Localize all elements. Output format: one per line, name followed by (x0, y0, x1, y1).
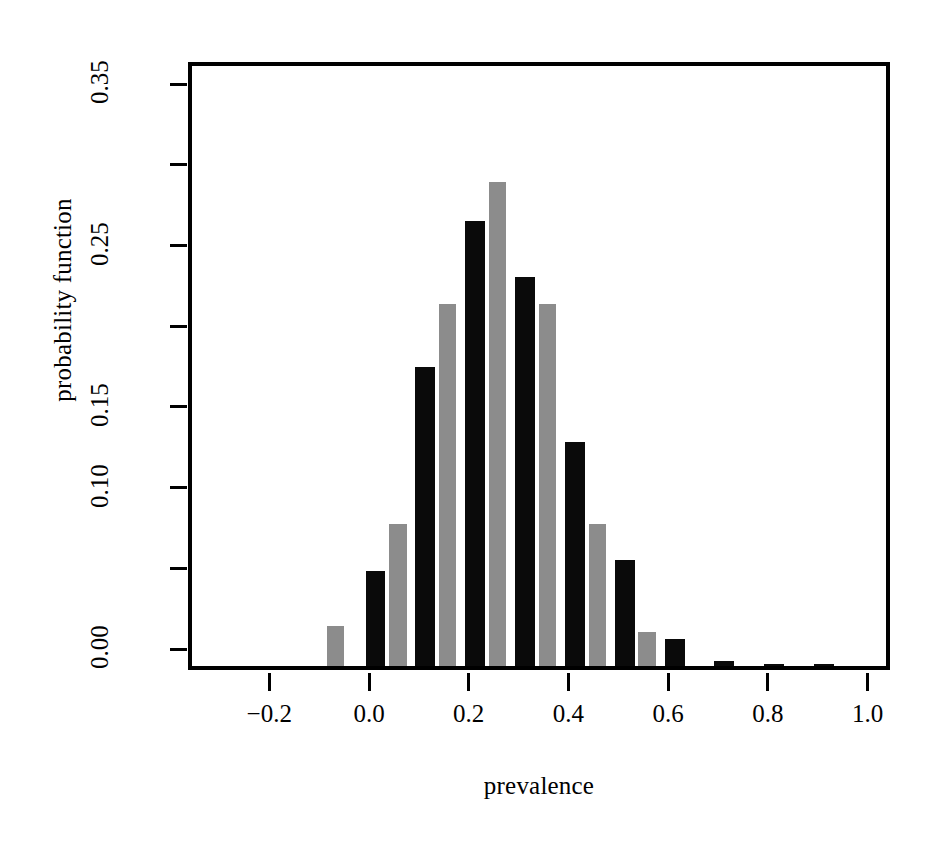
y-axis-label: probability function (46, 0, 80, 610)
x-tick-label-6: 1.0 (823, 700, 913, 728)
y-tick-6 (170, 163, 187, 166)
y-tick-5 (170, 244, 187, 247)
x-axis-label: prevalence (188, 772, 890, 800)
y-tick-label-4: 0.00 (86, 597, 114, 697)
x-tick-6 (866, 673, 869, 691)
y-tick-4 (170, 325, 187, 328)
x-tick-label-5: 0.8 (723, 700, 813, 728)
x-tick-1 (368, 673, 371, 691)
x-tick-0 (268, 673, 271, 691)
y-tick-label-1: 0.25 (86, 194, 114, 294)
y-tick-2 (170, 486, 187, 489)
y-tick-0 (170, 648, 187, 651)
bar-black-8 (764, 664, 784, 666)
x-tick-4 (667, 673, 670, 691)
y-tick-1 (170, 567, 187, 570)
y-tick-label-3: 0.10 (86, 436, 114, 536)
bar-gray-6 (539, 304, 556, 666)
bar-gray-7 (589, 524, 606, 666)
y-tick-label-0: 0.35 (86, 32, 114, 132)
bar-black-6 (665, 639, 685, 666)
x-tick-3 (567, 673, 570, 691)
bar-black-5 (615, 560, 635, 667)
plot-area (192, 66, 886, 666)
bar-black-4 (565, 442, 585, 666)
x-tick-label-2: 0.2 (424, 700, 514, 728)
bar-gray-4 (439, 304, 456, 666)
x-tick-label-3: 0.4 (523, 700, 613, 728)
bar-gray-2 (327, 626, 344, 666)
bar-black-3 (515, 277, 535, 666)
x-tick-5 (766, 673, 769, 691)
x-tick-label-4: 0.6 (623, 700, 713, 728)
y-tick-3 (170, 405, 187, 408)
x-tick-2 (467, 673, 470, 691)
bar-black-0 (366, 571, 386, 666)
y-tick-7 (170, 83, 187, 86)
plot-frame (188, 62, 890, 670)
x-tick-label-1: 0.0 (324, 700, 414, 728)
bar-black-2 (465, 221, 485, 666)
bar-black-9 (814, 664, 834, 666)
bar-gray-8 (638, 632, 655, 666)
bar-gray-5 (489, 182, 506, 666)
bar-black-1 (415, 367, 435, 666)
x-tick-label-0: −0.2 (224, 700, 314, 728)
bar-gray-3 (389, 524, 406, 666)
figure: probability function prevalence 0.350.25… (0, 0, 943, 864)
bar-black-7 (714, 661, 734, 666)
